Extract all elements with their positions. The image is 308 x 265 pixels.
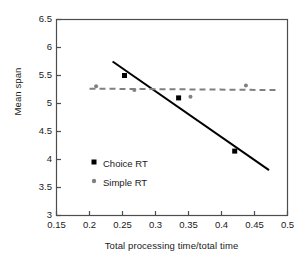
- plot-frame: [57, 20, 288, 216]
- y-tick-label: 5.5: [22, 69, 52, 80]
- y-tick-label: 5: [22, 97, 52, 108]
- legend-label-simple-rt: Simple RT: [103, 177, 147, 188]
- x-axis-title: Total processing time/total time: [56, 240, 287, 251]
- legend-markers: [92, 160, 97, 184]
- y-tick-label: 4.5: [22, 125, 52, 136]
- y-tick-label: 6: [22, 41, 52, 52]
- x-axis-tick-labels: 0.150.20.250.30.350.40.450.5: [0, 219, 307, 235]
- legend-label-choice-rt: Choice RT: [103, 158, 148, 169]
- y-tick-label: 3: [22, 209, 52, 220]
- axis-ticks: [57, 20, 288, 216]
- chart-figure: 33.544.555.566.5 0.150.20.250.30.350.40.…: [0, 0, 307, 265]
- y-tick-label: 6.5: [22, 13, 52, 24]
- data-points: [94, 73, 248, 154]
- y-tick-label: 3.5: [22, 181, 52, 192]
- x-tick-label: 0.5: [268, 219, 308, 230]
- y-axis-title: Mean span: [12, 47, 23, 137]
- y-tick-label: 4: [22, 153, 52, 164]
- trend-lines: [90, 62, 280, 171]
